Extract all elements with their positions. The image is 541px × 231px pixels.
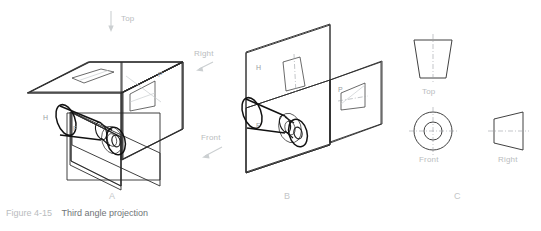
panel-c-right-view-shape — [488, 112, 529, 150]
figure-caption: Figure 4-15 Third angle projection — [6, 208, 148, 218]
panel-letter-c: C — [454, 191, 461, 201]
panel-c-front-view-label: Front — [419, 155, 439, 164]
panel-c-right-view-label: Right — [498, 155, 518, 164]
panel-c-front-view-shape — [409, 107, 457, 155]
figure-title: Third angle projection — [62, 208, 149, 218]
figure-container: Top Right Front — [0, 0, 541, 231]
panel-c-top-view-shape — [414, 34, 452, 84]
figure-number: Figure 4-15 — [6, 208, 52, 218]
panel-c-top-view-label: Top — [422, 87, 436, 96]
